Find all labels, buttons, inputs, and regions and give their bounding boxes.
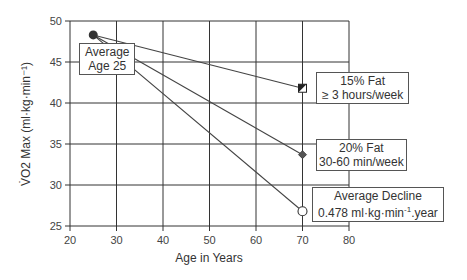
decline-unit: .year bbox=[411, 206, 438, 220]
y-tick-label: 50 bbox=[50, 15, 62, 27]
y-tick-label: 35 bbox=[50, 138, 62, 150]
x-tick-label: 20 bbox=[64, 234, 76, 246]
x-tick-label: 70 bbox=[296, 234, 308, 246]
x-tick-label: 50 bbox=[203, 234, 215, 246]
annotation-fat20: 20% Fat 30-60 min/week bbox=[316, 139, 407, 171]
x-axis-title: Age in Years bbox=[175, 251, 242, 265]
decline-rate: 0.478 ml·kg·min bbox=[318, 206, 404, 220]
x-tick-label: 80 bbox=[343, 234, 355, 246]
annotation-fat15-line2: ≥ 3 hours/week bbox=[322, 88, 403, 102]
annotation-fat20-line2: 30-60 min/week bbox=[319, 155, 404, 169]
marker-open-circle bbox=[298, 207, 307, 216]
annotation-fat15-line1: 15% Fat bbox=[322, 74, 403, 88]
annotation-fat15: 15% Fat ≥ 3 hours/week bbox=[316, 72, 409, 104]
annotation-age25-line2: Age 25 bbox=[85, 59, 129, 73]
y-tick-label: 25 bbox=[50, 220, 62, 232]
annotation-fat20-line1: 20% Fat bbox=[319, 141, 404, 155]
annotation-decline-line1: Average Decline bbox=[318, 189, 438, 203]
annotation-age25-line1: Average bbox=[85, 45, 129, 59]
x-tick-label: 30 bbox=[110, 234, 122, 246]
y-tick-label: 40 bbox=[50, 97, 62, 109]
y-tick-label: 30 bbox=[50, 179, 62, 191]
y-axis-title: V̇O2 Max (ml·kg·min⁻¹) bbox=[19, 62, 33, 186]
x-tick-label: 40 bbox=[157, 234, 169, 246]
x-tick-label: 60 bbox=[250, 234, 262, 246]
marker-origin bbox=[89, 30, 98, 39]
annotation-decline: Average Decline 0.478 ml·kg·min-1.year bbox=[312, 187, 444, 222]
y-tick-label: 45 bbox=[50, 56, 62, 68]
annotation-age25: Average Age 25 bbox=[79, 43, 135, 75]
marker-diamond bbox=[299, 151, 307, 159]
annotation-decline-line2: 0.478 ml·kg·min-1.year bbox=[318, 203, 438, 220]
